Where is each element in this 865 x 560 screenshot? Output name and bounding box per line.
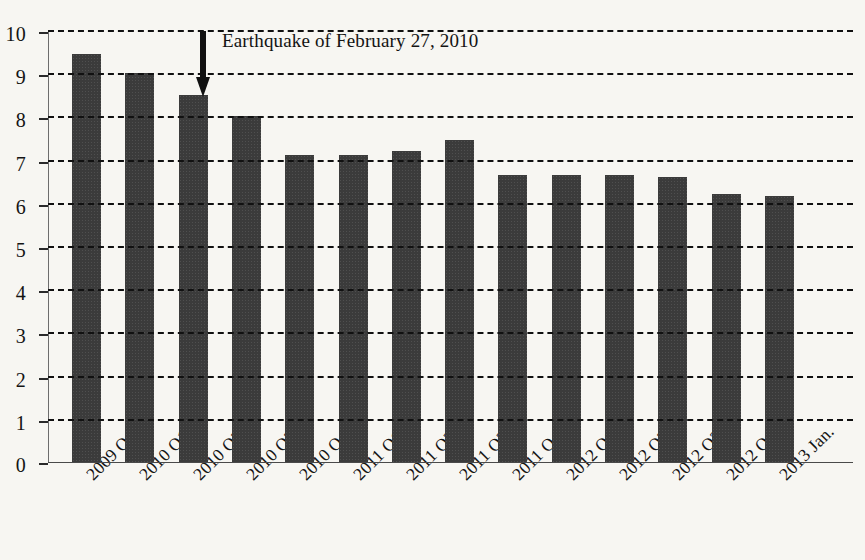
y-axis-tick: 4 [39,291,48,293]
bar [765,196,794,462]
earthquake-annotation-label: Earthquake of February 27, 2010 [222,30,478,52]
y-axis-tick: 7 [39,162,48,164]
y-axis-tick-label: 2 [16,368,26,391]
y-axis-tick: 8 [39,118,48,120]
bar-chart-figure: 012345678910 2009 Q42010 Q12010 Q22010 Q… [0,0,865,560]
gridline-6: 6 [48,203,853,205]
gridline-5: 5 [48,246,853,248]
y-axis-tick: 9 [39,75,48,77]
y-axis-tick: 3 [39,334,48,336]
bar [339,155,368,462]
gridline-0: 0 [48,462,853,463]
y-axis-tick-label: 9 [16,66,26,89]
gridline-1: 1 [48,419,853,421]
y-axis-tick-label: 0 [16,454,26,477]
y-axis-tick: 2 [39,378,48,380]
gridline-7: 7 [48,160,853,162]
bar [125,73,154,462]
y-axis-tick: 1 [39,421,48,423]
gridline-4: 4 [48,289,853,291]
bar [392,151,421,462]
y-axis-tick-label: 1 [16,411,26,434]
y-axis-tick: 0 [39,463,48,465]
gridline-8: 8 [48,116,853,118]
bar [285,155,314,462]
bar [72,54,101,462]
y-axis-tick-label: 10 [5,23,26,46]
y-axis-tick-label: 3 [16,325,26,348]
y-axis-tick: 6 [39,205,48,207]
plot-area: 012345678910 [48,30,853,462]
gridline-2: 2 [48,376,853,378]
gridline-3: 3 [48,332,853,334]
y-axis-tick: 5 [39,248,48,250]
bar [179,95,208,462]
y-axis-tick-label: 6 [16,195,26,218]
gridline-10: 10 [48,30,853,32]
bar [712,194,741,462]
gridline-9: 9 [48,73,853,75]
y-axis-tick: 10 [39,32,48,34]
y-axis-tick-label: 4 [16,282,26,305]
earthquake-arrow-icon [196,31,210,97]
y-axis-tick-label: 8 [16,109,26,132]
y-axis-tick-label: 7 [16,152,26,175]
bar [445,140,474,462]
y-axis-tick-label: 5 [16,239,26,262]
